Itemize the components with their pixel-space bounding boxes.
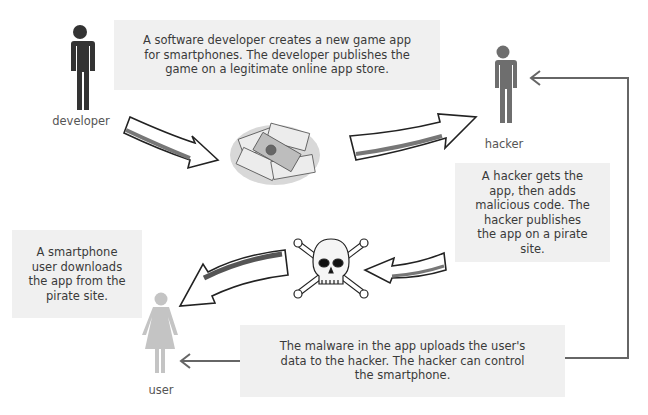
developer-label: developer <box>50 114 112 128</box>
arrow-skull-to-user-icon <box>180 250 288 306</box>
diagram-graphics <box>0 0 648 415</box>
user-label: user <box>145 383 177 397</box>
money-pile-icon <box>230 123 320 185</box>
arrow-money-to-hacker-icon <box>350 114 476 160</box>
skull-crossbones-icon <box>294 239 368 298</box>
arrow-hacker-to-skull-icon <box>365 253 446 283</box>
malware-to-user-arrow <box>181 354 240 368</box>
data-flow-connector <box>531 71 628 358</box>
user-icon <box>142 293 178 374</box>
hacker-icon <box>492 46 517 124</box>
hacker-label: hacker <box>480 137 528 151</box>
arrow-developer-to-money-icon <box>124 117 218 168</box>
developer-icon <box>68 25 95 110</box>
